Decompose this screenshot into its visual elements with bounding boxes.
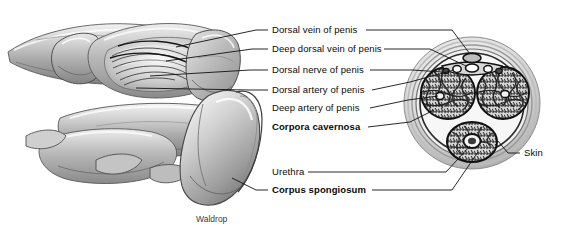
deep-dorsal-vein-cross	[466, 64, 479, 72]
dorsal-vein-cross	[463, 53, 481, 62]
leader-corpora-cavernosa-right	[368, 122, 410, 127]
artist-credit: Waldrop	[196, 214, 227, 224]
dorsal-artery-right-cross	[484, 66, 492, 73]
deep-artery-right	[501, 90, 509, 97]
cross-section-drawing	[404, 37, 540, 169]
leader-dorsal-artery-right	[372, 82, 410, 90]
label-dorsal-nerve: Dorsal nerve of penis	[272, 64, 364, 75]
label-dorsal-artery: Dorsal artery of penis	[272, 84, 365, 95]
corpus-cavernosum-right	[477, 67, 529, 119]
longitudinal-view-illustration	[0, 0, 564, 240]
corpus-spongiosum-cross	[447, 122, 497, 162]
label-deep-dorsal-vein: Deep dorsal vein of penis	[272, 43, 382, 54]
label-deep-artery: Deep artery of penis	[272, 102, 360, 113]
label-corpus-spongiosum: Corpus spongiosum	[272, 184, 366, 195]
label-corpora-cavernosa: Corpora cavernosa	[272, 121, 360, 132]
figure-canvas: Dorsal vein of penis Deep dorsal vein of…	[0, 0, 564, 240]
leader-deep-artery-right	[370, 100, 408, 108]
dorsal-nerve-right-cross	[496, 68, 502, 73]
dorsal-artery-left-cross	[453, 66, 461, 73]
label-skin: Skin	[524, 147, 543, 158]
label-urethra: Urethra	[272, 166, 304, 177]
urethra-lumen	[468, 138, 476, 144]
label-dorsal-vein: Dorsal vein of penis	[272, 24, 357, 35]
